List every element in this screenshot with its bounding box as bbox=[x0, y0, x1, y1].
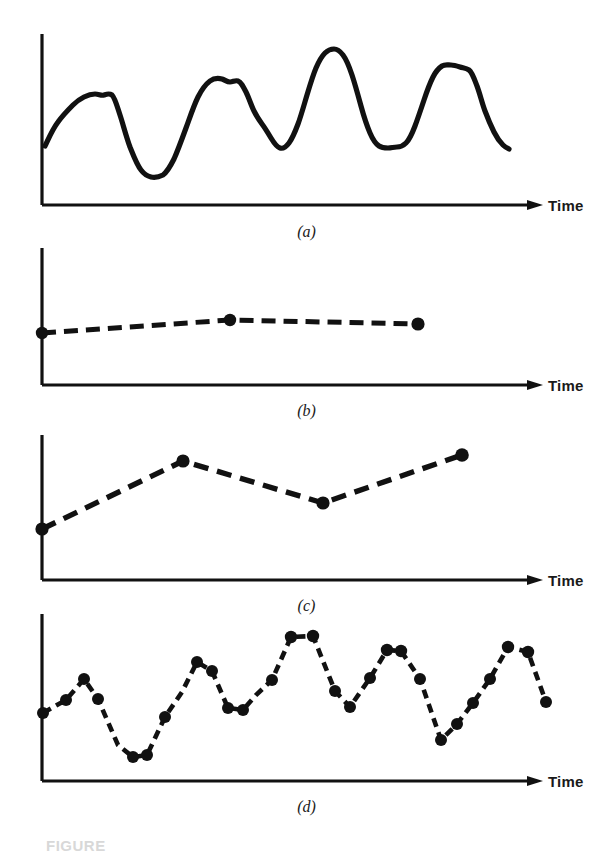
panel-d-data-point bbox=[484, 673, 496, 685]
panel-a-time-axis-label: Time bbox=[548, 198, 584, 213]
panel-d-data-point bbox=[159, 711, 171, 723]
panel-b-group bbox=[36, 248, 543, 390]
panel-d-data-point bbox=[451, 718, 463, 730]
panel-c-time-axis-label: Time bbox=[548, 573, 584, 588]
panel-b-data-point bbox=[36, 327, 48, 339]
panel-d-data-point bbox=[467, 697, 479, 709]
panel-d-caption: (d) bbox=[0, 799, 613, 815]
panel-d-time-axis-label: Time bbox=[548, 774, 584, 789]
panel-d-data-point bbox=[395, 645, 407, 657]
panel-a-group bbox=[42, 34, 543, 210]
panel-a-series-line bbox=[45, 49, 509, 177]
panel-c-group bbox=[35, 435, 543, 585]
panel-c-data-point bbox=[35, 522, 48, 535]
panel-d-data-point bbox=[285, 631, 297, 643]
panel-d-data-point bbox=[307, 630, 319, 642]
panel-d-data-point bbox=[329, 685, 341, 697]
panel-d-data-point bbox=[37, 707, 49, 719]
panel-b-time-axis-label: Time bbox=[548, 378, 584, 393]
panel-d-data-point bbox=[540, 696, 552, 708]
panel-d-data-point bbox=[191, 656, 203, 668]
panel-d-data-point bbox=[237, 704, 249, 716]
panel-b-caption: (b) bbox=[0, 403, 613, 419]
panel-c-caption: (c) bbox=[0, 598, 613, 614]
panel-d-data-point bbox=[381, 644, 393, 656]
panel-d-data-point bbox=[78, 673, 90, 685]
panel-a-x-axis-arrow-icon bbox=[527, 200, 543, 210]
panel-d-data-point bbox=[60, 694, 72, 706]
panel-d-data-point bbox=[435, 734, 447, 746]
panel-c-data-point bbox=[316, 496, 329, 509]
panel-d-data-point bbox=[127, 751, 139, 763]
panel-d-data-point bbox=[92, 693, 104, 705]
panel-c-data-point bbox=[455, 448, 469, 462]
panel-d-series-line bbox=[43, 636, 546, 757]
panel-b-data-point bbox=[224, 314, 236, 326]
panel-a-caption: (a) bbox=[0, 224, 613, 240]
panel-d-data-point bbox=[522, 646, 534, 658]
panel-d-data-point bbox=[266, 674, 278, 686]
panel-b-data-point bbox=[411, 317, 424, 330]
panel-d-data-point bbox=[414, 673, 426, 685]
panel-d-data-point bbox=[344, 701, 356, 713]
panel-d-x-axis-arrow-icon bbox=[527, 776, 543, 786]
figure-caption-label: FIGURE bbox=[46, 838, 106, 853]
panel-d-data-point bbox=[222, 702, 234, 714]
panel-c-x-axis-arrow-icon bbox=[527, 575, 543, 585]
panel-b-x-axis-arrow-icon bbox=[527, 380, 543, 390]
panel-d-data-point bbox=[502, 641, 514, 653]
panel-d-group bbox=[37, 614, 552, 786]
panel-d-data-point bbox=[364, 672, 376, 684]
panel-d-data-point bbox=[141, 749, 153, 761]
panel-d-data-point bbox=[206, 665, 218, 677]
panel-c-data-point bbox=[176, 454, 189, 467]
panel-c-series-line bbox=[42, 455, 462, 529]
